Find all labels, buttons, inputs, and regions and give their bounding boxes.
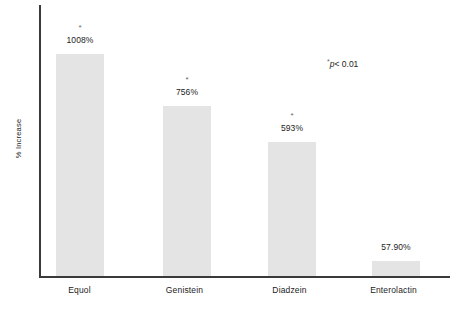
significance-star-diadzein: *	[253, 112, 331, 120]
bar-value-enterolactin: 57.90%	[357, 242, 435, 252]
category-label-genistein: Genistein	[133, 285, 236, 295]
bar-group-enterolactin: 57.90%	[357, 5, 460, 276]
bar-enterolactin	[372, 261, 420, 276]
bar-chart: % Increase * 1008% * 756% * 593% 57.90% …	[0, 0, 465, 316]
category-label-equol: Equol	[28, 285, 131, 295]
bar-value-diadzein: 593%	[253, 123, 331, 133]
bar-group-equol: * 1008%	[41, 5, 144, 276]
significance-star-genistein: *	[148, 76, 226, 84]
bar-value-genistein: 756%	[148, 87, 226, 97]
y-axis-label: % Increase	[14, 99, 23, 179]
bar-diadzein	[268, 142, 316, 276]
bar-value-equol: 1008%	[41, 35, 119, 45]
significance-note: *p< 0.01	[327, 58, 358, 69]
category-label-diadzein: Diadzein	[238, 285, 341, 295]
x-axis-line	[39, 276, 450, 278]
category-label-enterolactin: Enterolactin	[342, 285, 445, 295]
category-axis: Equol Genistein Diadzein Enterolactin	[41, 285, 450, 305]
bar-group-diadzein: * 593%	[253, 5, 356, 276]
plot-area: * 1008% * 756% * 593% 57.90%	[41, 5, 450, 276]
bar-equol	[56, 54, 104, 276]
significance-note-comparison: < 0.01	[334, 59, 358, 69]
significance-star-equol: *	[41, 24, 119, 32]
bar-genistein	[163, 106, 211, 276]
bar-group-genistein: * 756%	[148, 5, 251, 276]
